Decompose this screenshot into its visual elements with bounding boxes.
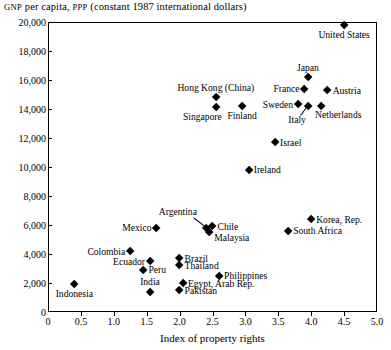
x-tick-mark — [278, 312, 279, 316]
x-tick-label: 5.0 — [371, 316, 384, 327]
x-tick-label: 1.5 — [140, 316, 153, 327]
y-tick-mark — [48, 167, 52, 168]
x-tick-mark — [311, 312, 312, 316]
y-tick-label: 0 — [2, 307, 46, 318]
data-point-label: Sweden — [263, 100, 293, 110]
x-tick-mark — [245, 312, 246, 316]
y-tick-label: 12,000 — [2, 133, 46, 144]
data-point-label: Israel — [280, 138, 301, 148]
data-point-label: Ecuador — [113, 257, 145, 267]
chart-figure: GNP per capita, PPP (constant 1987 inter… — [0, 0, 391, 350]
data-point-label: Italy — [288, 115, 306, 125]
x-tick-label: 4.5 — [338, 316, 351, 327]
y-tick-label: 16,000 — [2, 75, 46, 86]
data-point-label: Thailand — [185, 261, 219, 271]
data-point-label: Hong Kong (China) — [177, 83, 254, 93]
y-tick-mark — [48, 283, 52, 284]
x-tick-label: 3.0 — [239, 316, 252, 327]
data-point-label: Pakistan — [185, 286, 218, 296]
data-point-label: Argentina — [159, 207, 197, 217]
x-tick-mark — [81, 312, 82, 316]
y-tick-mark — [48, 51, 52, 52]
x-tick-mark — [180, 312, 181, 316]
y-tick-label: 10,000 — [2, 162, 46, 173]
x-tick-mark — [213, 312, 214, 316]
data-point-label: Singapore — [183, 112, 222, 122]
x-tick-mark — [147, 312, 148, 316]
y-tick-mark — [48, 254, 52, 255]
y-tick-mark — [48, 138, 52, 139]
data-point-label: Japan — [297, 63, 319, 73]
x-tick-mark — [344, 312, 345, 316]
data-point-label: India — [140, 277, 160, 287]
data-point-label: Ireland — [254, 165, 281, 175]
y-tick-label: 4,000 — [2, 249, 46, 260]
data-point-label: Netherlands — [315, 110, 361, 120]
x-tick-label: 2.5 — [206, 316, 219, 327]
x-tick-label: 0.5 — [75, 316, 88, 327]
data-point-label: Colombia — [87, 247, 125, 257]
data-point-label: Korea, Rep. — [316, 215, 362, 225]
y-tick-label: 6,000 — [2, 220, 46, 231]
x-axis-title: Index of property rights — [48, 332, 377, 344]
y-tick-label: 14,000 — [2, 104, 46, 115]
y-tick-label: 18,000 — [2, 46, 46, 57]
data-point-label: South Africa — [293, 226, 342, 236]
y-tick-mark — [48, 109, 52, 110]
y-tick-label: 2,000 — [2, 278, 46, 289]
data-point-label: Austria — [333, 86, 361, 96]
x-tick-label: 4.0 — [305, 316, 318, 327]
x-tick-label: 2.0 — [173, 316, 186, 327]
data-point-label: Indonesia — [56, 289, 93, 299]
y-tick-mark — [48, 80, 52, 81]
x-tick-label: 1.0 — [108, 316, 121, 327]
data-point-label: Chile — [218, 222, 239, 232]
data-point-label: France — [274, 84, 300, 94]
data-point-label: United States — [318, 30, 369, 40]
x-tick-mark — [114, 312, 115, 316]
y-tick-mark — [48, 225, 52, 226]
data-point-label: Peru — [148, 265, 166, 275]
x-tick-label: 3.5 — [272, 316, 285, 327]
y-tick-mark — [48, 196, 52, 197]
data-point-label: Malaysia — [214, 233, 249, 243]
x-tick-label: 0 — [46, 316, 51, 327]
data-point-label: Mexico — [122, 223, 151, 233]
y-tick-label: 20,000 — [2, 17, 46, 28]
data-point-label: Finland — [227, 111, 256, 121]
y-tick-label: 8,000 — [2, 191, 46, 202]
chart-title: GNP per capita, PPP (constant 1987 inter… — [4, 1, 247, 12]
